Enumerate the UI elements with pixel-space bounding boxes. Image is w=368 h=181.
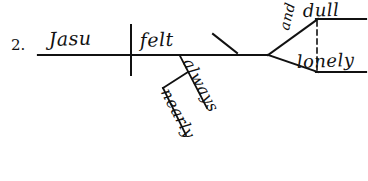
item-number: 2.: [11, 38, 25, 53]
subject-word: Jasu: [48, 29, 92, 49]
predicate-adjective-lonely: lonely: [296, 51, 354, 71]
predicate-adjective-dull: dull: [302, 1, 339, 20]
verb-word: felt: [139, 30, 174, 50]
predicate-adjective-slant-line: [213, 34, 237, 53]
sentence-diagram-canvas: 2. Jasu felt dull lonely and always near…: [0, 0, 368, 181]
